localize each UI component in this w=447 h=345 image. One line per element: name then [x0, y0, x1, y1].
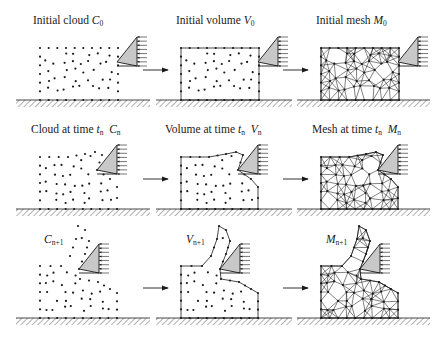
tool-wedge: [378, 145, 398, 174]
node-particle: [52, 272, 54, 274]
mesh-edge: [344, 175, 351, 176]
node-particle: [185, 59, 187, 61]
mesh-edge: [338, 184, 344, 194]
node-particle: [201, 164, 203, 166]
node-particle: [45, 181, 47, 183]
node-particle: [398, 99, 400, 101]
node-particle: [198, 89, 200, 91]
node-particle: [206, 300, 208, 302]
mesh-edge: [389, 83, 399, 88]
node-particle: [327, 274, 329, 276]
node-particle: [387, 189, 389, 191]
node-particle: [93, 69, 95, 71]
mesh-edge: [337, 200, 338, 209]
node-particle: [65, 317, 67, 319]
node-particle: [108, 55, 110, 57]
node-particle: [320, 317, 322, 319]
node-particle: [180, 282, 182, 284]
node-particle: [117, 82, 119, 84]
node-particle: [224, 310, 226, 312]
node-particle: [180, 199, 182, 201]
node-particle: [345, 76, 347, 78]
node-particle: [180, 47, 182, 49]
mesh-edge: [363, 290, 364, 298]
mesh-edge: [360, 86, 364, 100]
tool-wedge: [220, 244, 240, 273]
label-initial-mesh: Initial mesh M0: [316, 14, 387, 28]
node-particle: [228, 173, 230, 175]
node-particle: [355, 47, 357, 49]
node-particle: [320, 173, 322, 175]
mesh-edge: [352, 299, 363, 306]
node-particle: [56, 183, 58, 185]
node-particle: [246, 61, 248, 63]
node-particle: [375, 151, 377, 153]
node-particle: [54, 77, 56, 79]
node-particle: [229, 240, 231, 242]
node-particle: [225, 229, 227, 231]
mesh-edge: [372, 306, 384, 309]
mesh-edge: [321, 310, 327, 318]
node-particle: [258, 82, 260, 84]
label-cloud-tn: Cloud at time tn Cn: [31, 123, 121, 137]
node-particle: [69, 255, 71, 257]
node-particle: [398, 90, 400, 92]
node-particle: [222, 260, 224, 262]
node-particle: [383, 301, 385, 303]
mesh-edge: [333, 310, 338, 318]
node-particle: [251, 199, 253, 201]
node-particle: [53, 164, 55, 166]
node-particle: [51, 309, 53, 311]
node-particle: [221, 63, 223, 65]
node-particle: [389, 99, 391, 101]
node-particle: [69, 174, 71, 176]
node-particle: [106, 189, 108, 191]
mesh-edge: [370, 192, 382, 199]
node-particle: [354, 208, 356, 210]
node-particle: [362, 298, 364, 300]
node-particle: [45, 282, 47, 284]
node-particle: [257, 197, 259, 199]
node-particle: [208, 156, 210, 158]
node-particle: [180, 156, 182, 158]
node-particle: [380, 317, 382, 319]
node-particle: [199, 156, 201, 158]
node-particle: [39, 317, 41, 319]
node-particle: [186, 309, 188, 311]
node-particle: [203, 175, 205, 177]
node-particle: [374, 69, 376, 71]
mesh-edge: [328, 281, 334, 292]
node-particle: [194, 164, 196, 166]
node-particle: [201, 265, 203, 267]
node-particle: [57, 89, 59, 91]
mesh-edge: [321, 174, 327, 181]
node-particle: [108, 47, 110, 49]
node-particle: [225, 253, 227, 255]
label-mesh-tn: Mesh at time tn Mn: [312, 123, 401, 137]
node-particle: [341, 265, 343, 267]
mesh-edge: [345, 77, 346, 89]
mesh-edge: [363, 294, 373, 299]
mesh-edge: [335, 157, 339, 165]
node-particle: [248, 87, 250, 89]
node-particle: [343, 193, 345, 195]
node-particle: [84, 153, 86, 155]
node-particle: [70, 305, 72, 307]
node-particle: [48, 80, 50, 82]
node-particle: [39, 156, 41, 158]
node-particle: [223, 317, 225, 319]
node-particle: [47, 87, 49, 89]
mesh-edge: [321, 191, 327, 200]
node-particle: [84, 253, 86, 255]
node-particle: [60, 164, 62, 166]
mesh-edge: [351, 169, 362, 175]
node-particle: [247, 189, 249, 191]
node-particle: [398, 56, 400, 58]
node-particle: [390, 288, 392, 290]
node-particle: [82, 208, 84, 210]
node-particle: [384, 284, 386, 286]
node-particle: [225, 153, 227, 155]
node-particle: [369, 279, 371, 281]
mesh-boundary: [321, 48, 399, 100]
node-particle: [325, 59, 327, 61]
